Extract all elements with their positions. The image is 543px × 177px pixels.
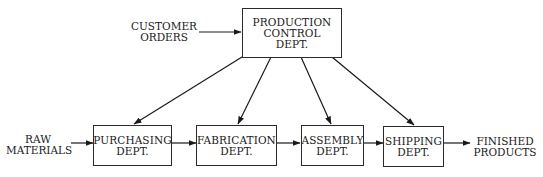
node-label: SHIPPING — [385, 136, 442, 147]
arrow-production-to-shipping — [332, 57, 414, 125]
label-line: ORDERS — [130, 32, 198, 43]
node-assembly: ASSEMBLY DEPT. — [301, 125, 364, 166]
node-label: DEPT. — [397, 147, 429, 158]
node-label: CONTROL — [263, 28, 320, 39]
node-label: FABRICATION — [197, 135, 276, 146]
node-production-control: PRODUCTION CONTROL DEPT. — [242, 8, 342, 58]
customer-orders-label: CUSTOMER ORDERS — [130, 21, 198, 43]
node-label: DEPT. — [276, 39, 308, 50]
label-line: PRODUCTS — [471, 147, 539, 158]
node-purchasing: PURCHASING DEPT. — [93, 125, 172, 166]
label-line: MATERIALS — [6, 145, 70, 156]
node-shipping: SHIPPING DEPT. — [383, 126, 444, 167]
node-label: ASSEMBLY — [302, 135, 364, 146]
node-label: DEPT. — [316, 146, 348, 157]
node-label: PRODUCTION — [253, 17, 332, 28]
node-label: DEPT. — [220, 146, 252, 157]
node-label: DEPT. — [116, 146, 148, 157]
node-fabrication: FABRICATION DEPT. — [196, 125, 277, 166]
finished-products-label: FINISHED PRODUCTS — [471, 136, 539, 158]
raw-materials-label: RAW MATERIALS — [6, 134, 70, 156]
arrow-production-to-assembly — [301, 57, 331, 124]
arrow-production-to-purchasing — [134, 57, 242, 124]
arrow-production-to-fabrication — [238, 57, 271, 124]
node-label: PURCHASING — [93, 135, 171, 146]
